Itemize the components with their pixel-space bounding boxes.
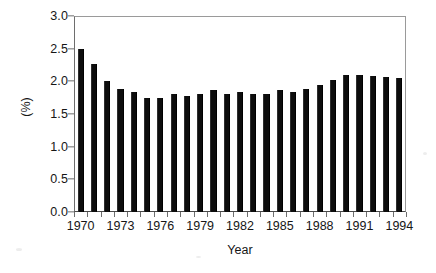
x-axis-tick-mark: [247, 212, 248, 217]
bar: [78, 49, 84, 212]
chart-figure: (%) 0.00.51.01.52.02.53.0 19701973197619…: [0, 0, 436, 273]
x-axis-tick-mark: [406, 212, 407, 217]
bar: [277, 90, 283, 212]
x-axis-tick-mark: [167, 212, 168, 217]
bar: [303, 89, 309, 212]
bar: [104, 81, 110, 212]
x-axis-tick-mark: [313, 212, 314, 217]
bar: [224, 94, 230, 212]
bar: [184, 96, 190, 212]
bar: [237, 92, 243, 212]
x-axis-tick-mark: [154, 212, 155, 217]
x-axis-tick-mark: [286, 212, 287, 217]
y-axis-tick-labels: 0.00.51.01.52.02.53.0: [26, 16, 68, 212]
y-axis-tick-label: 0.5: [26, 173, 68, 186]
x-axis-tick-mark: [180, 212, 181, 217]
x-axis-tick-mark: [300, 212, 301, 217]
bar: [117, 89, 123, 212]
bar: [317, 85, 323, 212]
paper-speckle: [16, 248, 22, 251]
x-axis-tick-mark: [74, 212, 75, 217]
x-axis-tick-mark: [87, 212, 88, 217]
bar: [343, 75, 349, 212]
x-axis-tick-mark: [260, 212, 261, 217]
bar: [210, 90, 216, 212]
bar: [263, 94, 269, 212]
bar: [290, 92, 296, 212]
x-axis-tick-label: 1994: [376, 219, 422, 233]
x-axis-tick-mark: [101, 212, 102, 217]
y-axis-tick-label: 1.0: [26, 140, 68, 153]
x-axis-tick-labels: 197019731976197919821985198819911994: [74, 219, 406, 237]
x-axis-tick-mark: [273, 212, 274, 217]
bar: [131, 92, 137, 212]
x-axis-title: Year: [74, 243, 406, 257]
x-axis-tick-mark: [194, 212, 195, 217]
bar: [370, 76, 376, 212]
x-axis-tick-mark: [340, 212, 341, 217]
x-axis-tick-mark: [326, 212, 327, 217]
y-axis-tick-label: 0.0: [26, 206, 68, 219]
x-axis-tick-mark: [366, 212, 367, 217]
bar: [250, 94, 256, 212]
bar: [330, 80, 336, 212]
x-axis-tick-mark: [393, 212, 394, 217]
x-axis-tick-mark: [140, 212, 141, 217]
bar: [197, 94, 203, 212]
x-axis-tick-mark: [353, 212, 354, 217]
bar: [144, 98, 150, 212]
bar: [356, 75, 362, 212]
x-axis-tick-mark: [220, 212, 221, 217]
bar: [157, 98, 163, 212]
x-axis-tick-marks: [74, 212, 406, 218]
bar: [396, 78, 402, 212]
y-axis-tick-label: 2.5: [26, 42, 68, 55]
y-axis-tick-label: 2.0: [26, 75, 68, 88]
bar: [383, 77, 389, 212]
bar: [91, 64, 97, 212]
x-axis-tick-mark: [379, 212, 380, 217]
paper-speckle: [423, 152, 427, 155]
y-axis-tick-label: 1.5: [26, 108, 68, 121]
x-axis-tick-mark: [207, 212, 208, 217]
x-axis-tick-mark: [233, 212, 234, 217]
x-axis-tick-mark: [114, 212, 115, 217]
bar-series: [74, 16, 406, 212]
bar: [171, 94, 177, 212]
y-axis-tick-label: 3.0: [26, 10, 68, 23]
x-axis-tick-mark: [127, 212, 128, 217]
